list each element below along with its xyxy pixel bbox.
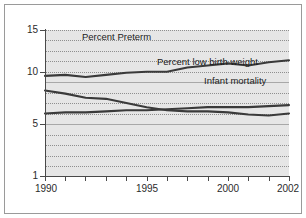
- x-tick: [248, 176, 249, 181]
- x-tick: [126, 176, 127, 181]
- y-tick-label-5: 5: [5, 119, 38, 129]
- series-label-percent-preterm: Percent Preterm: [82, 31, 151, 42]
- x-tick: [167, 176, 168, 181]
- x-tick: [106, 176, 107, 181]
- x-tick: [85, 176, 86, 181]
- series-label-percent-low-birth-weight: Percent low birth weight: [157, 56, 258, 67]
- x-tick: [228, 176, 229, 181]
- y-tick: [40, 30, 45, 31]
- series-label-infant-mortality: Infant mortality: [204, 75, 266, 86]
- y-tick-label-1: 1: [5, 171, 38, 181]
- x-tick-label-2002: 2002: [277, 183, 299, 194]
- data-lines: [45, 30, 289, 176]
- chart-figure: 15 10 5 1 1990 1995 2000 2002 Percent Pr…: [0, 0, 306, 218]
- y-tick-label-15: 15: [5, 25, 38, 35]
- x-tick-label-1995: 1995: [136, 183, 158, 194]
- x-tick: [208, 176, 209, 181]
- x-tick: [45, 176, 46, 181]
- x-tick: [187, 176, 188, 181]
- chart-frame: 15 10 5 1 1990 1995 2000 2002 Percent Pr…: [4, 4, 302, 214]
- x-tick: [269, 176, 270, 181]
- x-tick: [65, 176, 66, 181]
- y-tick: [40, 72, 45, 73]
- y-tick-label-10: 10: [5, 67, 38, 77]
- x-tick: [289, 176, 290, 181]
- x-tick: [147, 176, 148, 181]
- x-tick-label-2000: 2000: [217, 183, 239, 194]
- y-tick: [40, 124, 45, 125]
- y-axis-line: [45, 29, 46, 177]
- x-tick-label-1990: 1990: [35, 183, 57, 194]
